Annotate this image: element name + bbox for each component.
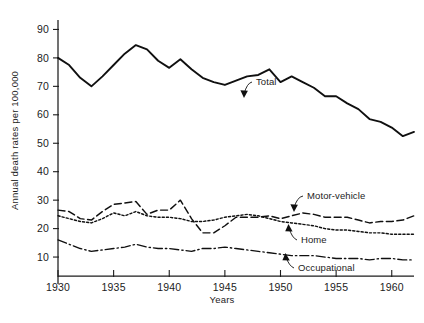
x-tick-label: 1935: [102, 281, 126, 293]
annotation-total: Total: [240, 76, 276, 98]
y-tick-label: 70: [37, 80, 49, 92]
series-line-motor-vehicle: [58, 200, 414, 233]
y-tick-label: 20: [37, 222, 49, 234]
arrowhead-total: [240, 90, 248, 98]
y-tick-label: 40: [37, 165, 49, 177]
x-axis-title: Years: [210, 294, 235, 305]
x-tick-label: 1945: [213, 281, 237, 293]
series-label-total: Total: [256, 76, 277, 87]
series-label-occupational: Occupational: [298, 262, 355, 273]
annotation-motor-vehicle: Motor-vehicle: [290, 190, 365, 212]
y-axis-title: Annual death rates per 100,000: [9, 71, 20, 210]
series-label-motor-vehicle: Motor-vehicle: [307, 190, 365, 201]
x-tick-label: 1940: [157, 281, 181, 293]
y-tick-label: 60: [37, 108, 49, 120]
series-line-home: [58, 212, 414, 235]
y-tick-label: 30: [37, 194, 49, 206]
arrowhead-motor-vehicle: [290, 204, 298, 212]
y-tick-label: 80: [37, 52, 49, 64]
series-line-occupational: [58, 240, 414, 260]
x-axis-tick-labels: 1930193519401945195019551960: [46, 281, 404, 293]
accident-death-rates-chart: 102030405060708090 193019351940194519501…: [0, 0, 424, 323]
y-tick-label: 10: [37, 251, 49, 263]
y-tick-label: 50: [37, 137, 49, 149]
chart-canvas: 102030405060708090 193019351940194519501…: [0, 0, 424, 323]
x-tick-label: 1930: [46, 281, 70, 293]
x-tick-label: 1955: [324, 281, 348, 293]
arrowhead-home: [285, 224, 292, 232]
series-line-total: [58, 45, 414, 136]
x-tick-label: 1960: [380, 281, 404, 293]
x-tick-label: 1950: [268, 281, 292, 293]
y-axis-tick-labels: 102030405060708090: [37, 23, 49, 263]
series-label-home: Home: [301, 234, 327, 245]
y-tick-label: 90: [37, 23, 49, 35]
